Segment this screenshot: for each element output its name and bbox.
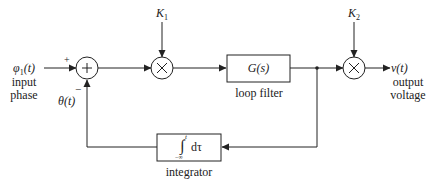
input-label-line2: phase: [4, 88, 44, 102]
k1-label: K1: [152, 6, 172, 25]
integrator-box: [157, 134, 221, 161]
feedback-signal-label: θ(t): [58, 94, 75, 108]
feedback-to-integrator-arrow: [222, 68, 317, 147]
integrator-caption: integrator: [149, 165, 229, 179]
output-label-line2: voltage: [386, 88, 430, 102]
integrator-lower-limit: −∞: [175, 154, 183, 161]
summer-minus-sign: −: [75, 82, 81, 96]
k2-label: K2: [344, 6, 364, 25]
output-label-line1: output: [386, 75, 430, 89]
integrator-content: dτ: [191, 140, 202, 154]
integrator-to-summer-arrow: [87, 80, 157, 147]
output-symbol: v(t): [391, 61, 421, 75]
integral-sign: ∫: [180, 137, 184, 155]
junction-dot: [315, 66, 319, 70]
loop-filter-caption: loop filter: [219, 86, 299, 100]
input-label-line1: input: [4, 75, 44, 89]
integrator-upper-limit: t: [185, 133, 187, 141]
loop-filter-content: G(s): [227, 61, 290, 75]
summer-plus-sign: +: [64, 53, 70, 67]
